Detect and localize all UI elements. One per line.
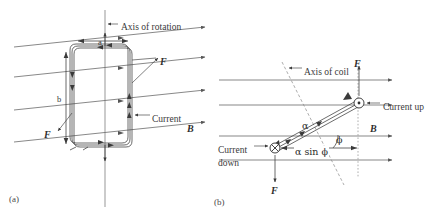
panel-b-label-field-b: B — [370, 118, 377, 136]
panel-b-label-projection: α sin ϕ — [294, 141, 329, 159]
panel-b-label-force-bottom: F — [271, 180, 278, 198]
panel-a-label-field-b: B — [187, 118, 194, 136]
panel-a-current-arrows — [70, 43, 132, 148]
panel-a-dimension-b — [64, 52, 69, 144]
panel-a-coil — [70, 44, 132, 150]
panel-a-label-side-b: b — [57, 88, 61, 106]
panel-b-label-current-up: Current up — [383, 96, 424, 114]
panel-b-force-arrows — [275, 66, 359, 182]
panel-a-force-right — [132, 58, 158, 83]
panel-a-label-force-left: F — [44, 124, 51, 142]
panel-a-label-force-right: F — [160, 51, 167, 69]
panel-b-label-force-top: F — [354, 53, 361, 71]
panel-b-label-angle-phi: ϕ — [336, 129, 342, 147]
panel-a-label-side-a: a — [98, 31, 102, 49]
panel-b-axis-of-coil-line — [282, 62, 344, 185]
panel-b-axis-label: Axis of coil — [304, 61, 349, 79]
panel-b-label-length-alpha: α — [302, 115, 308, 133]
panel-b-current-down-symbol — [270, 143, 280, 153]
panel-b-label-current-down-line2: down — [218, 152, 239, 170]
panel-b-current-up-symbol — [354, 98, 364, 108]
panel-a-caption: (a) — [9, 188, 19, 206]
panel-a-axis-label: Axis of rotation — [121, 16, 181, 34]
physics-figure-torque-on-coil: Axis of rotation a b F F Current B (a) A… — [0, 0, 434, 217]
figure-canvas — [0, 0, 434, 217]
panel-b-caption: (b) — [214, 191, 225, 209]
panel-a-label-current: Current — [152, 108, 181, 126]
